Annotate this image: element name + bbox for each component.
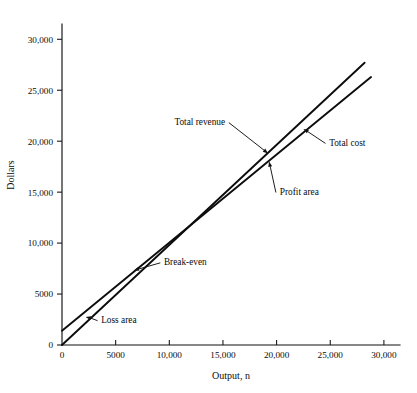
x-tick-label: 0 (60, 350, 65, 360)
annotation-label-total-revenue: Total revenue (174, 117, 225, 127)
y-tick-label: 20,000 (28, 137, 54, 147)
annotation-label-loss-area: Loss area (101, 315, 136, 325)
annotation-label-total-cost: Total cost (329, 138, 366, 148)
x-tick-label: 15,000 (210, 350, 236, 360)
series-line-total-revenue (62, 63, 365, 345)
y-tick-label: 30,000 (28, 35, 54, 45)
data-series-group (62, 63, 371, 345)
x-tick-label: 25,000 (318, 350, 344, 360)
x-tick-label: 20,000 (264, 350, 290, 360)
x-axis-tick-marks (116, 340, 384, 345)
y-tick-label: 25,000 (28, 86, 54, 96)
x-axis-tick-labels: 0500010,00015,00020,00025,00030,000 (60, 350, 397, 360)
y-axis-tick-marks (57, 39, 62, 345)
x-tick-label: 10,000 (157, 350, 183, 360)
break-even-chart-figure: 0500010,00015,00020,00025,00030,000 0500… (0, 0, 417, 393)
y-axis-tick-labels: 0500010,00015,00020,00025,00030,000 (28, 35, 54, 351)
y-axis-title: Dollars (5, 160, 16, 190)
annotation-leader-profit-area (270, 167, 276, 192)
x-axis-title: Output, n (212, 370, 250, 381)
x-tick-label: 5000 (106, 350, 125, 360)
y-tick-label: 10,000 (28, 238, 54, 248)
x-tick-label: 30,000 (371, 350, 397, 360)
annotation-leader-total-cost (308, 132, 325, 144)
annotation-leader-total-revenue (229, 123, 264, 150)
y-tick-label: 15,000 (28, 188, 54, 198)
annotation-leader-loss-area (91, 318, 97, 320)
annotations-group: Total revenueTotal costProfit areaBreak-… (86, 117, 366, 325)
chart-canvas: 0500010,00015,00020,00025,00030,000 0500… (0, 0, 417, 393)
y-tick-label: 5000 (35, 289, 54, 299)
annotation-label-profit-area: Profit area (280, 187, 319, 197)
annotation-label-break-even: Break-even (164, 257, 207, 267)
annotation-arrowhead-profit-area (268, 162, 272, 168)
series-line-total-cost (62, 77, 371, 331)
y-tick-label: 0 (48, 340, 53, 350)
